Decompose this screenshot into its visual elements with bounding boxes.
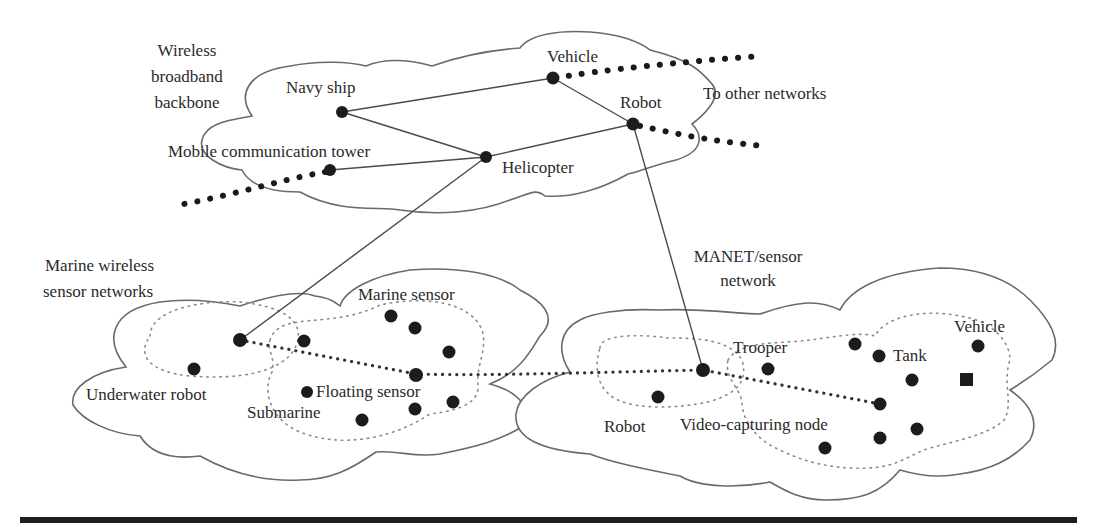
label-backbone-3: backbone [154, 93, 219, 112]
node-floating-sensor [409, 368, 423, 382]
label-video-capturing: Video-capturing node [680, 415, 828, 434]
label-manet-1: MANET/sensor [694, 247, 803, 266]
label-floating-sensor: Floating sensor [316, 382, 421, 401]
label-marine-sensor: Marine sensor [358, 285, 455, 304]
node-vehicle-top [547, 72, 560, 85]
bottom-rule [20, 517, 1077, 523]
label-navy-ship: Navy ship [286, 78, 355, 97]
manet-cloud [516, 268, 1056, 500]
label-vehicle-bottom: Vehicle [954, 317, 1005, 336]
network-diagram: Wireless broadband backbone Navy ship Ve… [0, 0, 1109, 530]
label-manet-2: network [720, 271, 776, 290]
label-vehicle-top: Vehicle [547, 47, 598, 66]
node-square [960, 373, 973, 386]
node-tank [873, 350, 886, 363]
node-video-capturing [874, 398, 887, 411]
label-to-other-networks: To other networks [703, 84, 826, 103]
node-mobile-tower [324, 164, 336, 176]
label-helicopter: Helicopter [502, 158, 574, 177]
node-underwater-gateway [233, 333, 247, 347]
node-helicopter [480, 151, 492, 163]
node-manet-gateway [696, 363, 710, 377]
label-marine-2: sensor networks [43, 282, 153, 301]
label-underwater-robot: Underwater robot [86, 385, 207, 404]
label-tank: Tank [893, 346, 927, 365]
node-robot-top [627, 118, 640, 131]
label-robot-bottom: Robot [604, 417, 646, 436]
node-navy-ship [336, 106, 348, 118]
node-trooper [762, 363, 775, 376]
node-vehicle-bottom [972, 340, 985, 353]
label-submarine: Submarine [247, 403, 321, 422]
label-backbone-2: broadband [151, 67, 223, 86]
node-robot-bottom [652, 391, 665, 404]
node-underwater-robot [188, 363, 201, 376]
label-marine-1: Marine wireless [45, 256, 154, 275]
label-mobile-tower: Mobile communication tower [168, 142, 370, 161]
node-submarine [356, 414, 369, 427]
label-backbone-1: Wireless [158, 41, 217, 60]
label-trooper: Trooper [733, 338, 787, 357]
label-robot-top: Robot [620, 93, 662, 112]
